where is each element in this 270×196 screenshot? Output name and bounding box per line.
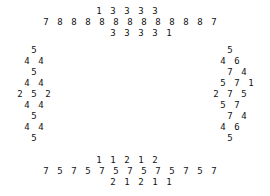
digit: 8 bbox=[140, 17, 148, 28]
digit: 8 bbox=[126, 17, 134, 28]
digit: 4 bbox=[37, 78, 45, 89]
digit: 5 bbox=[140, 166, 148, 177]
digit: 1 bbox=[137, 155, 145, 166]
digit: 1 bbox=[165, 28, 173, 39]
digit: 5 bbox=[226, 45, 234, 56]
digit: 3 bbox=[137, 6, 145, 17]
digit-row: 44571 bbox=[0, 78, 270, 89]
digit: 4 bbox=[37, 122, 45, 133]
digit-row: 7575757575757 bbox=[0, 166, 270, 177]
digit: 7 bbox=[226, 89, 234, 100]
digit-row: 4446 bbox=[0, 122, 270, 133]
digit: 5 bbox=[30, 133, 38, 144]
digit: 1 bbox=[95, 6, 103, 17]
digit: 2 bbox=[137, 177, 145, 188]
digit-row: 252275 bbox=[0, 89, 270, 100]
digit: 5 bbox=[30, 45, 38, 56]
digit-row: 4457 bbox=[0, 100, 270, 111]
digit: 5 bbox=[240, 89, 248, 100]
digit: 6 bbox=[233, 56, 241, 67]
digit-row: 7888888888887 bbox=[0, 17, 270, 28]
digit: 2 bbox=[109, 177, 117, 188]
digit-row: 574 bbox=[0, 111, 270, 122]
digit: 5 bbox=[30, 111, 38, 122]
digit: 5 bbox=[219, 78, 227, 89]
digit: 3 bbox=[151, 6, 159, 17]
digit: 1 bbox=[109, 155, 117, 166]
digit: 7 bbox=[226, 67, 234, 78]
digit: 4 bbox=[23, 78, 31, 89]
digit: 3 bbox=[123, 6, 131, 17]
digit: 7 bbox=[210, 166, 218, 177]
digit: 8 bbox=[98, 17, 106, 28]
digit: 8 bbox=[56, 17, 64, 28]
digit: 7 bbox=[233, 100, 241, 111]
digit: 4 bbox=[37, 56, 45, 67]
digit: 8 bbox=[154, 17, 162, 28]
digit: 2 bbox=[44, 89, 52, 100]
digit: 4 bbox=[240, 111, 248, 122]
digit-row: 21211 bbox=[0, 177, 270, 188]
digit: 7 bbox=[42, 166, 50, 177]
digit: 5 bbox=[219, 100, 227, 111]
digit: 4 bbox=[219, 56, 227, 67]
digit: 4 bbox=[37, 100, 45, 111]
digit: 5 bbox=[112, 166, 120, 177]
digit: 2 bbox=[151, 155, 159, 166]
digit: 5 bbox=[226, 133, 234, 144]
digit: 1 bbox=[151, 177, 159, 188]
digit: 1 bbox=[123, 177, 131, 188]
digit: 3 bbox=[109, 28, 117, 39]
digit: 3 bbox=[123, 28, 131, 39]
digit: 5 bbox=[168, 166, 176, 177]
digit-row: 55 bbox=[0, 133, 270, 144]
digit: 5 bbox=[56, 166, 64, 177]
digit: 7 bbox=[126, 166, 134, 177]
digit: 7 bbox=[154, 166, 162, 177]
digit: 7 bbox=[226, 111, 234, 122]
digit-row: 55 bbox=[0, 45, 270, 56]
digit: 3 bbox=[151, 28, 159, 39]
digit: 1 bbox=[95, 155, 103, 166]
digit: 5 bbox=[84, 166, 92, 177]
digit: 3 bbox=[109, 6, 117, 17]
digit: 8 bbox=[70, 17, 78, 28]
digit: 1 bbox=[165, 177, 173, 188]
digit-row: 4446 bbox=[0, 56, 270, 67]
digit: 8 bbox=[112, 17, 120, 28]
digit: 7 bbox=[70, 166, 78, 177]
digit: 3 bbox=[137, 28, 145, 39]
digit: 4 bbox=[23, 56, 31, 67]
digit: 4 bbox=[219, 122, 227, 133]
digit: 2 bbox=[212, 89, 220, 100]
digit-row: 11212 bbox=[0, 155, 270, 166]
digit: 7 bbox=[98, 166, 106, 177]
digit: 5 bbox=[30, 89, 38, 100]
digit: 2 bbox=[16, 89, 24, 100]
digit: 8 bbox=[84, 17, 92, 28]
digit: 7 bbox=[182, 166, 190, 177]
digit: 7 bbox=[233, 78, 241, 89]
digit: 5 bbox=[196, 166, 204, 177]
digit: 8 bbox=[182, 17, 190, 28]
digit-row: 13333 bbox=[0, 6, 270, 17]
digit: 8 bbox=[196, 17, 204, 28]
digit-row: 33331 bbox=[0, 28, 270, 39]
digit: 6 bbox=[233, 122, 241, 133]
digit-row: 574 bbox=[0, 67, 270, 78]
digit: 5 bbox=[30, 67, 38, 78]
digit: 4 bbox=[23, 100, 31, 111]
digit: 8 bbox=[168, 17, 176, 28]
digit: 1 bbox=[247, 78, 255, 89]
digit: 4 bbox=[240, 67, 248, 78]
digit: 7 bbox=[210, 17, 218, 28]
digit: 4 bbox=[23, 122, 31, 133]
digit: 2 bbox=[123, 155, 131, 166]
digit: 7 bbox=[42, 17, 50, 28]
